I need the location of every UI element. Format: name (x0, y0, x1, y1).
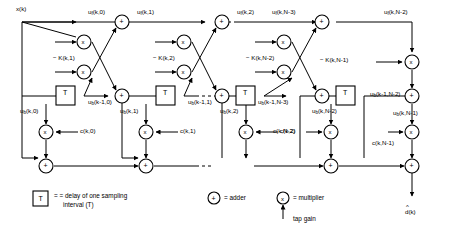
backward-label-1: ub(k,1) (120, 108, 138, 115)
multiplier-symbol: x (82, 69, 85, 75)
backward-label-0: ub(k,0) (20, 108, 38, 115)
adder-symbol: + (120, 18, 124, 25)
multiplier-symbol: x (182, 39, 185, 45)
delay-label-3: T (243, 89, 247, 96)
adder-symbol: + (120, 92, 124, 99)
legend-multiplier-symbol: x (281, 195, 284, 203)
forward-label-2: uf(k,2) (237, 9, 254, 16)
backward-delayed-label-1: ub(k-1,1) (188, 99, 212, 106)
tap-gain-label-n2: c(k,N-2) (273, 128, 295, 134)
multiplier-symbol: x (82, 39, 85, 45)
lattice-filter-diagram: x(k) uf(k,0) uf(k,1) uf(k,2) uf(k,N-3) u… (0, 0, 472, 235)
adder-symbol: + (410, 92, 414, 99)
multiplier-symbol: x (329, 129, 332, 135)
multiplier-symbol: x (410, 59, 413, 65)
backward-path-lines (22, 22, 412, 96)
adder-nodes (39, 15, 419, 173)
legend-delay-text: = = delay of one samplinginterval (T) (54, 192, 127, 209)
forward-label-1: uf(k,1) (137, 9, 154, 16)
tap-gain-label-1: c(k,1) (180, 128, 195, 134)
reflection-label-n2: − K(k,N-2) (246, 55, 274, 61)
legend-adder-text: = adder (224, 194, 246, 203)
multiplier-symbol: x (282, 39, 285, 45)
multiplier-symbol: x (410, 129, 413, 135)
backward-label-n2: ub(k,N-2) (312, 108, 337, 115)
adder-symbol: + (320, 92, 324, 99)
tap-gain-label-n1: c(k,N-1) (372, 140, 394, 146)
backward-label-2: ub(k,2) (220, 108, 238, 115)
adder-symbol: + (320, 18, 324, 25)
backward-delayed-label-n3: ub(k-1,N-3) (258, 99, 288, 106)
legend-delay-symbol: T (39, 194, 43, 203)
multiplier-symbol: x (182, 69, 185, 75)
adder-symbol: + (144, 162, 148, 169)
adder-symbol: + (220, 18, 224, 25)
forward-label-0: uf(k,0) (88, 9, 105, 16)
adder-symbol: + (44, 162, 48, 169)
backward-label-n1: ub(k,N-1) (393, 110, 418, 117)
multiplier-symbol: x (144, 129, 147, 135)
delay-label-1: T (63, 89, 67, 96)
reflection-label-1: − K(k,1) (53, 55, 75, 61)
legend-multiplier-text: = multiplier (293, 194, 324, 203)
delay-label-2: T (163, 89, 167, 96)
legend-tap-gain-text: tap gain (293, 215, 316, 224)
reflection-label-n1: − K(k,N-1) (320, 57, 348, 63)
legend-adder-symbol: + (212, 194, 216, 203)
multiplier-symbol: x (244, 129, 247, 135)
input-label: x(k) (16, 6, 26, 12)
adder-symbol: + (220, 92, 224, 99)
tap-gain-label-0: c(k,0) (80, 128, 95, 134)
multiplier-symbol: x (44, 129, 47, 135)
multiplier-symbol: x (282, 69, 285, 75)
backward-delayed-label-0: ub(k-1,0) (88, 99, 112, 106)
adder-symbol: + (410, 162, 414, 169)
output-label: d(k) (405, 208, 416, 215)
backward-delayed-label-n2: ub(k-1,N-2) (370, 91, 400, 98)
adder-symbol: + (329, 162, 333, 169)
delay-label-4: T (343, 89, 347, 96)
reflection-label-2: − K(k,2) (153, 55, 175, 61)
forward-label-n2: uf(k,N-2) (384, 9, 408, 16)
forward-label-n3: uf(k,N-3) (272, 9, 296, 16)
